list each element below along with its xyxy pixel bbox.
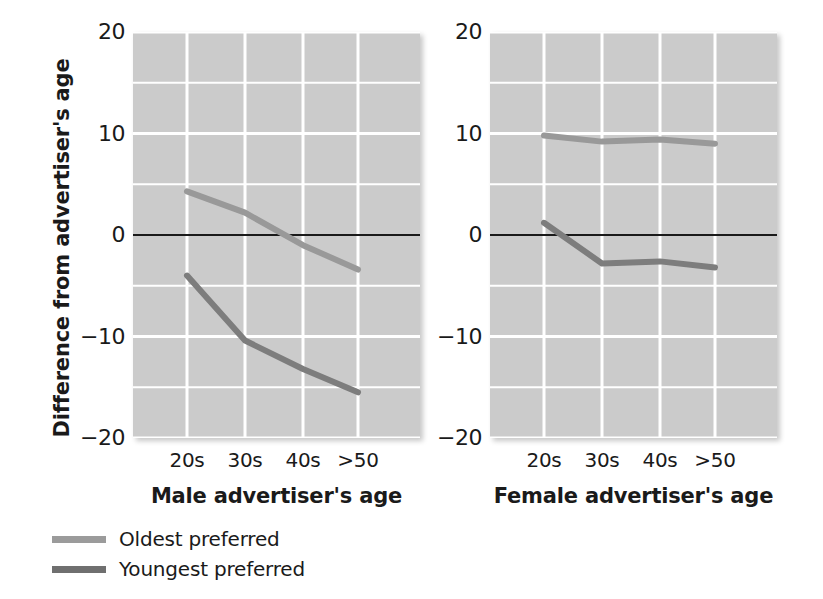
plot-lines-female (490, 32, 777, 438)
x-axis-title: Male advertiser's age (133, 484, 420, 508)
legend-item: Youngest preferred (52, 554, 305, 584)
x-axis-tick-label: 40s (633, 450, 687, 470)
panel-female (490, 32, 777, 438)
x-axis-tick-label: >50 (688, 450, 742, 470)
x-axis-tick-label: 30s (575, 450, 629, 470)
series-line (544, 223, 715, 268)
y-axis-tick-label: −20 (426, 427, 482, 449)
x-axis-tick-label: 30s (218, 450, 272, 470)
legend-swatch (52, 536, 106, 543)
y-axis-tick-label: 20 (69, 21, 125, 43)
series-line (187, 276, 358, 393)
y-axis-tick-label: 0 (69, 224, 125, 246)
y-axis-title: Difference from advertiser's age (50, 38, 74, 458)
y-axis-tick-label: −10 (426, 326, 482, 348)
y-axis-tick-label: 10 (69, 123, 125, 145)
panel-male (133, 32, 420, 438)
y-axis-tick-label: −20 (69, 427, 125, 449)
chart-legend: Oldest preferredYoungest preferred (52, 524, 305, 584)
x-axis-tick-label: 40s (276, 450, 330, 470)
plot-lines-male (133, 32, 420, 438)
x-axis-tick-label: 20s (160, 450, 214, 470)
y-axis-tick-label: 0 (426, 224, 482, 246)
y-axis-tick-label: 20 (426, 21, 482, 43)
legend-label: Oldest preferred (119, 529, 280, 549)
x-axis-tick-label: >50 (331, 450, 385, 470)
series-line (187, 191, 358, 269)
y-axis-tick-label: −10 (69, 326, 125, 348)
chart-figure: Difference from advertiser's age 20100−1… (0, 0, 823, 599)
x-axis-tick-label: 20s (517, 450, 571, 470)
legend-swatch (52, 566, 106, 573)
legend-label: Youngest preferred (119, 559, 305, 579)
x-axis-title: Female advertiser's age (490, 484, 777, 508)
series-line (544, 136, 715, 144)
y-axis-tick-label: 10 (426, 123, 482, 145)
legend-item: Oldest preferred (52, 524, 305, 554)
